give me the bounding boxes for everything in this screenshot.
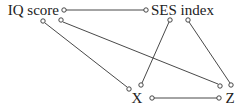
port-x-top-right (139, 83, 143, 87)
node-label-x: X (132, 90, 143, 106)
edge-ses-z (189, 22, 230, 83)
port-ses-bottom-right (186, 18, 190, 22)
port-iq-right (62, 8, 66, 12)
graph-diagram: IQ score SES index X Z (0, 0, 247, 107)
port-z-top-right (229, 83, 233, 87)
port-iq-bottom-left (41, 19, 45, 23)
port-z-left (217, 96, 221, 100)
node-label-ses: SES index (151, 2, 214, 18)
edge-iq-x (45, 23, 127, 87)
port-ses-left (144, 8, 148, 12)
node-label-z: Z (225, 90, 234, 106)
port-iq-bottom-right (59, 18, 63, 22)
port-x-top-left (127, 87, 131, 91)
port-z-top-left (218, 84, 222, 88)
edge-ses-x (142, 22, 169, 83)
port-x-right (150, 96, 154, 100)
node-label-iq: IQ score (8, 2, 60, 18)
port-ses-bottom-left (168, 18, 172, 22)
